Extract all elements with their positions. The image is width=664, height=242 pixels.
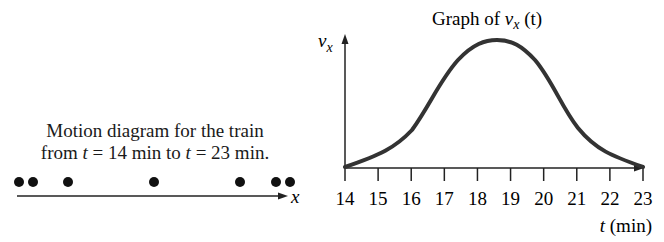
tick-label: 19 (501, 188, 520, 209)
tick-label: 20 (534, 188, 553, 209)
position-dot (235, 177, 245, 187)
y-axis-arrowhead (342, 34, 349, 44)
t-axis-label: t (min) (600, 215, 652, 237)
figure-canvas: x Graph of vx (t) vx 1415161718192021222… (0, 0, 664, 242)
velocity-graph: Graph of vx (t) vx 14151617181920212223 … (318, 8, 653, 237)
tick-label: 17 (435, 188, 454, 209)
tick-label: 23 (634, 188, 653, 209)
tick-label: 15 (369, 188, 388, 209)
x-axis-label: x (290, 186, 300, 207)
position-dots (14, 177, 295, 187)
tick-label: 14 (336, 188, 356, 209)
position-dot (149, 177, 159, 187)
tick-label: 22 (600, 188, 619, 209)
tick-label: 16 (402, 188, 421, 209)
t-axis-ticks (345, 168, 643, 181)
x-axis-arrowhead (278, 193, 288, 200)
y-axis-label: vx (318, 30, 333, 55)
tick-label: 21 (567, 188, 586, 209)
graph-title: Graph of vx (t) (432, 8, 542, 32)
position-dot (63, 177, 73, 187)
position-dot (271, 177, 281, 187)
t-axis-tick-labels: 14151617181920212223 (336, 188, 653, 209)
motion-diagram: x (14, 177, 300, 207)
position-dot (14, 177, 24, 187)
position-dot (28, 177, 38, 187)
velocity-curve (345, 40, 643, 167)
tick-label: 18 (468, 188, 487, 209)
